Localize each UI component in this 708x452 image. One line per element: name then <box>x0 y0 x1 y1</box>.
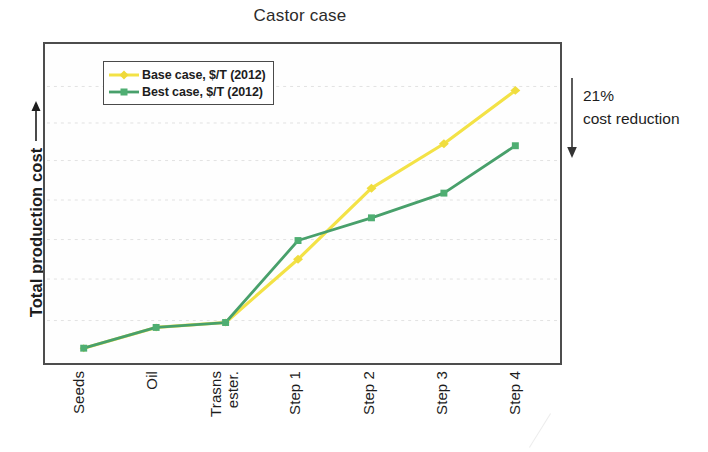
x-tick-label-trasns-ester: Trasns ester. <box>207 371 243 452</box>
x-tick-label-seeds: Seeds <box>70 371 88 452</box>
x-tick-label-step-2: Step 2 <box>360 371 378 452</box>
up-arrow-icon <box>30 101 42 141</box>
cost-reduction-annotation: 21% cost reduction <box>566 78 708 162</box>
legend-entry-base-case: Base case, $/T (2012) <box>109 66 266 83</box>
x-tick-label-step-3: Step 3 <box>433 371 451 452</box>
legend-swatch-square-icon <box>109 86 139 98</box>
down-arrow-icon <box>566 78 580 158</box>
cost-reduction-annotation-text: 21% cost reduction <box>583 84 707 130</box>
legend-label-best-case: Best case, $/T (2012) <box>142 85 263 99</box>
series-best-case <box>80 142 519 351</box>
series-base-case <box>80 86 521 352</box>
cost-reduction-percent: 21% <box>583 84 707 107</box>
scan-artifact <box>529 413 551 447</box>
legend: Base case, $/T (2012) Best case, $/T (20… <box>103 61 274 105</box>
legend-entry-best-case: Best case, $/T (2012) <box>109 83 266 100</box>
chart-title: Castor case <box>0 6 600 26</box>
x-tick-label-step-1: Step 1 <box>286 371 304 452</box>
x-tick-label-oil: Oil <box>143 371 161 452</box>
plot-area: Base case, $/T (2012) Best case, $/T (20… <box>43 42 562 365</box>
cost-reduction-caption: cost reduction <box>583 107 707 130</box>
legend-label-base-case: Base case, $/T (2012) <box>142 68 266 82</box>
x-tick-label-step-4: Step 4 <box>506 371 524 452</box>
legend-swatch-diamond-icon <box>109 69 139 81</box>
